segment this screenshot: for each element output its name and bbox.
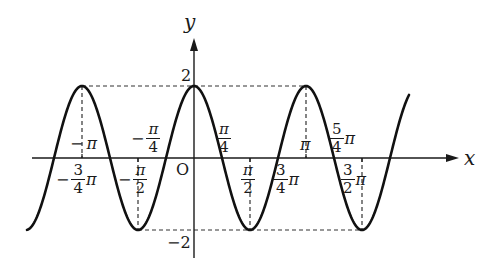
x-axis-arrow-icon: [446, 154, 459, 162]
tick-label-neg-pi: −π: [70, 136, 97, 152]
tick-label-pi-4: π4: [217, 122, 231, 155]
y-axis-arrow-icon: [190, 38, 198, 51]
tick-label-3-2-pi: 32 π: [341, 163, 366, 196]
origin-label: O: [176, 162, 189, 178]
x-axis-label: x: [464, 148, 475, 168]
y-min-label: −2: [167, 235, 191, 251]
tick-label-3-4-pi: 34 π: [274, 163, 299, 196]
tick-label-neg-3-4-pi: − 34 π: [56, 163, 96, 196]
tick-label-5-4-pi: 54 π: [330, 122, 355, 155]
y-max-label: 2: [181, 68, 191, 84]
cosine-graph-figure: y x O 2 −2 −π − 34 π − π2 − π4 π4 π2 34 …: [0, 0, 493, 273]
tick-label-pi: π: [300, 137, 311, 153]
y-axis-label: y: [184, 12, 195, 32]
tick-label-neg-pi-2: − π2: [118, 163, 147, 196]
tick-label-neg-pi-4: − π4: [131, 122, 160, 155]
tick-label-pi-2: π2: [241, 163, 255, 196]
